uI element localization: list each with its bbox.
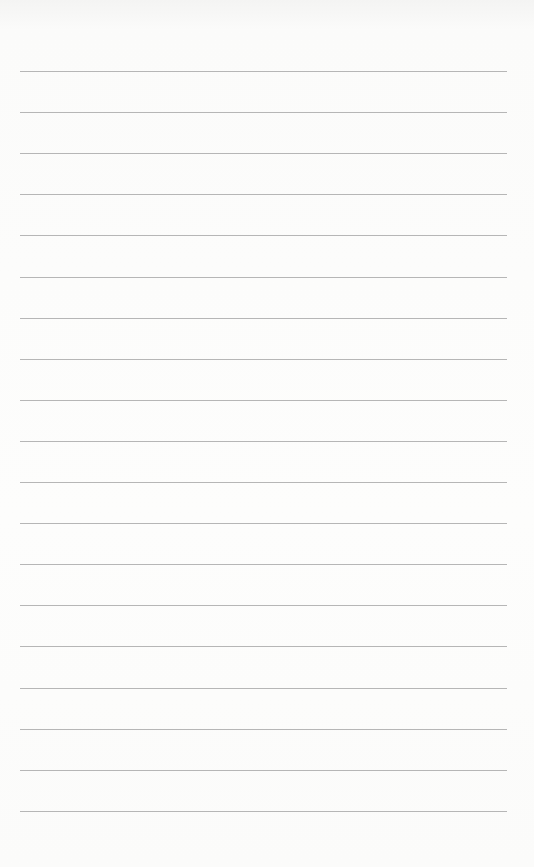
ruled-line xyxy=(20,235,507,236)
ruled-line xyxy=(20,605,507,606)
ruled-line xyxy=(20,112,507,113)
ruled-line xyxy=(20,153,507,154)
ruled-line xyxy=(20,359,507,360)
ruled-line xyxy=(20,770,507,771)
ruled-line xyxy=(20,811,507,812)
ruled-line xyxy=(20,71,507,72)
ruled-line xyxy=(20,729,507,730)
ruled-line xyxy=(20,277,507,278)
ruled-line xyxy=(20,646,507,647)
ruled-line xyxy=(20,441,507,442)
ruled-line xyxy=(20,564,507,565)
ruled-line xyxy=(20,318,507,319)
ruled-line xyxy=(20,482,507,483)
ruled-line xyxy=(20,688,507,689)
ruled-line xyxy=(20,194,507,195)
ruled-line xyxy=(20,400,507,401)
lined-paper-page xyxy=(0,0,534,867)
ruled-line xyxy=(20,523,507,524)
